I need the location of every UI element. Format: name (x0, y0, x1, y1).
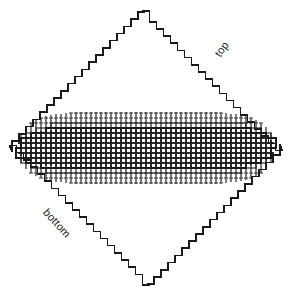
diagram-canvas (0, 0, 292, 295)
figure-root: top bottom (0, 0, 292, 295)
grid-band (16, 112, 276, 184)
